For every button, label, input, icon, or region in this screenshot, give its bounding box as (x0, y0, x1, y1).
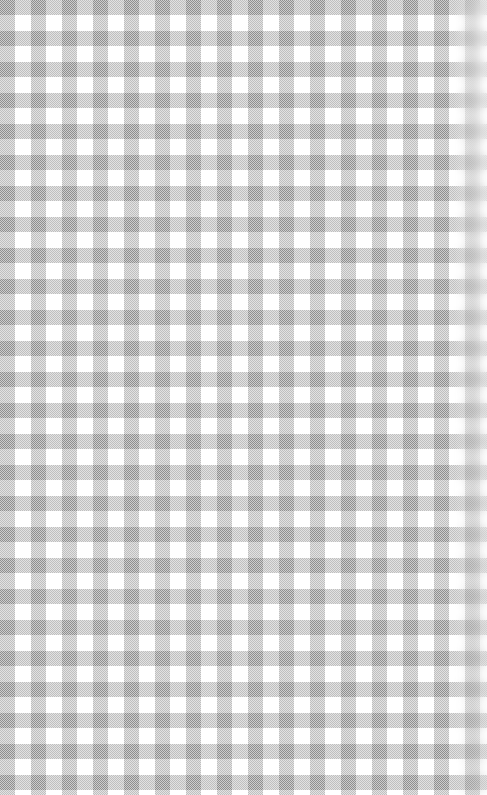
gingham-pattern-layer (0, 0, 487, 795)
texture-canvas: Gray gingham check fabric texture (0, 0, 487, 795)
